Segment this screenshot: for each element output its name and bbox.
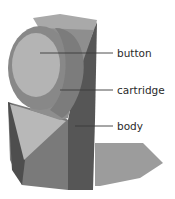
label-body: body (117, 121, 143, 132)
label-cartridge: cartridge (117, 85, 165, 96)
label-button: button (117, 48, 152, 59)
button-face (12, 33, 60, 97)
device-illustration (0, 0, 175, 199)
diagram-canvas: button cartridge body (0, 0, 175, 199)
ground-shadow (95, 143, 163, 186)
